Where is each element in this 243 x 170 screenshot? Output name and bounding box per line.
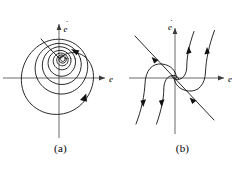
panel-b-x-axis-label: e — [228, 74, 232, 84]
panel-a-x-axis — [3, 76, 105, 81]
panel-b-y-axis-label: e — [168, 22, 172, 32]
panel-b-arrow-lower-left-inner — [159, 99, 165, 107]
panel-a-y-axis — [57, 24, 62, 138]
panel-b-trajectory-lower-left-outer — [136, 64, 177, 124]
panel-a: e · e (a) — [0, 0, 121, 170]
panel-b-caption: (b) — [122, 142, 243, 154]
phase-portrait-figure: e · e (a) — [0, 0, 243, 170]
panel-b-arrow-lower-left-outer — [140, 99, 146, 107]
panel-b-trajectory-upper-right-outer — [174, 31, 215, 92]
panel-a-y-axis-label: e — [64, 24, 68, 34]
panel-b-arrow-upper-right-inner — [186, 47, 192, 55]
panel-b: e · e — [122, 0, 243, 170]
panel-a-x-axis-label: e — [109, 74, 113, 84]
panel-b-plot: e · e — [122, 0, 243, 145]
panel-a-plot: e · e — [0, 0, 121, 145]
panel-b-arrow-separatrix-upper — [152, 57, 159, 64]
panel-a-arrow-2 — [80, 94, 87, 102]
panel-a-caption: (a) — [0, 142, 121, 154]
panel-b-arrow-separatrix-lower — [190, 98, 197, 105]
panel-a-spiral-trajectory — [21, 39, 93, 114]
